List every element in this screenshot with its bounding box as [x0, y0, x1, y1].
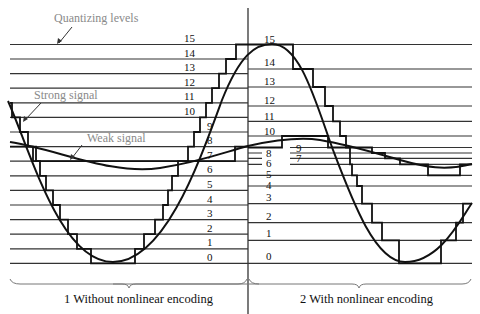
left-level-0: 0: [207, 251, 213, 263]
right-caption: 2 With nonlinear encoding: [300, 292, 434, 306]
left-level-7: 7: [207, 149, 213, 161]
right-level-13: 13: [264, 75, 276, 87]
right-level-4: 4: [266, 179, 272, 191]
right-level-10: 10: [264, 125, 276, 137]
left-caption: 1 Without nonlinear encoding: [64, 292, 214, 306]
right-level-12: 12: [264, 94, 275, 106]
left-level-6: 6: [207, 163, 213, 175]
left-level-1: 1: [207, 236, 213, 248]
quantizing-levels-annotation: Quantizing levels: [54, 11, 139, 25]
left-level-4: 4: [207, 193, 213, 205]
right-level-7: 7: [296, 152, 302, 164]
right-level-0: 0: [266, 250, 272, 262]
left-level-14: 14: [184, 47, 196, 59]
quantization-diagram: 15 14 13 12 11 10 9 8 7 6 5 4 3 2 1 0: [0, 0, 480, 314]
weak-signal-annotation: Weak signal: [87, 131, 146, 145]
left-level-13: 13: [184, 61, 196, 73]
left-level-10: 10: [184, 105, 196, 117]
left-level-11: 11: [184, 90, 195, 102]
left-level-2: 2: [207, 222, 213, 234]
left-level-5: 5: [207, 178, 213, 190]
right-level-11: 11: [264, 110, 275, 122]
right-brace: [113, 279, 471, 288]
right-level-2: 2: [266, 210, 272, 222]
diagram-canvas: 15 14 13 12 11 10 9 8 7 6 5 4 3 2 1 0: [0, 0, 480, 314]
right-level-14: 14: [264, 56, 276, 68]
right-level-1: 1: [266, 227, 272, 239]
left-level-12: 12: [184, 76, 195, 88]
left-level-15: 15: [184, 32, 196, 44]
strong-signal-annotation: Strong signal: [34, 88, 98, 102]
left-level-3: 3: [207, 207, 213, 219]
right-level-3: 3: [266, 191, 272, 203]
